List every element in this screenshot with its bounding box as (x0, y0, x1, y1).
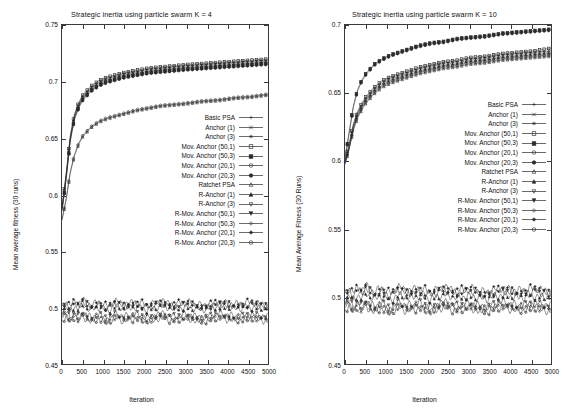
y-tick-mark (547, 298, 551, 299)
legend-item[interactable]: Mov. Anchor (50,3) (379, 138, 547, 148)
legend-key-plus-icon (521, 100, 547, 109)
y-tick-label: 0.5 (332, 293, 341, 300)
y-tick-mark (62, 139, 66, 140)
x-tick-mark (532, 25, 533, 29)
y-tick-mark (345, 161, 349, 162)
legend-item-label: R-Anchor (3) (198, 199, 238, 209)
x-tick-label: 1500 (399, 368, 413, 375)
x-tick-mark (345, 25, 346, 29)
legend-key-open-square-icon (238, 142, 264, 151)
x-tick-mark (62, 25, 63, 29)
x-tick-mark (124, 25, 125, 29)
legend-key-filled-diamond-icon (238, 228, 264, 237)
legend-item[interactable]: Mov. Anchor (20,3) (379, 158, 547, 168)
x-tick-mark (62, 360, 63, 364)
x-axis-ticks-left: 0500100015002000250030003500400045005000 (0, 368, 283, 382)
legend-key-cross-icon (521, 110, 547, 119)
legend-key-filled-triangle-icon (521, 177, 547, 186)
legend-item[interactable]: R-Anchor (3) (96, 199, 264, 209)
x-tick-label: 4000 (220, 368, 234, 375)
y-axis-ticks-right: 0.450.50.550.60.650.7 (297, 0, 341, 419)
chart-panel-right: Strategic inertia using particle swarm K… (283, 0, 566, 419)
legend-item[interactable]: R-Mov. Anchor (50,1) (379, 196, 547, 206)
legend-key-filled-down-triangle-icon (521, 196, 547, 205)
legend-key-open-square-icon (521, 129, 547, 138)
legend-item-label: R-Anchor (1) (481, 177, 521, 187)
legend-item[interactable]: Mov. Anchor (50,3) (96, 151, 264, 161)
legend-key-open-circle-icon (238, 161, 264, 170)
legend-item[interactable]: R-Anchor (1) (96, 190, 264, 200)
x-tick-mark (83, 25, 84, 29)
y-tick-mark (264, 252, 268, 253)
x-tick-mark (145, 25, 146, 29)
legend-item[interactable]: Anchor (1) (96, 123, 264, 133)
legend-item[interactable]: R-Mov. Anchor (50,1) (96, 209, 264, 219)
y-tick-mark (547, 25, 551, 26)
x-tick-mark (407, 360, 408, 364)
legend-key-filled-triangle-icon (238, 190, 264, 199)
legend-item[interactable]: Anchor (3) (379, 119, 547, 129)
y-tick-label: 0.5 (49, 305, 58, 312)
x-tick-label: 4500 (524, 368, 538, 375)
chart-panel-left: Strategic inertia using particle swarm K… (0, 0, 283, 419)
legend-item[interactable]: Basic PSA (96, 113, 264, 123)
legend-key-filled-diamond-icon (521, 215, 547, 224)
y-tick-mark (547, 230, 551, 231)
legend-item[interactable]: Ratchet PSA (379, 167, 547, 177)
legend-item[interactable]: Ratchet PSA (96, 180, 264, 190)
x-tick-label: 500 (359, 368, 370, 375)
legend-key-open-circle-icon (521, 225, 547, 234)
x-tick-label: 3000 (179, 368, 193, 375)
legend-key-open-diamond-icon (521, 206, 547, 215)
legend-item[interactable]: Mov. Anchor (20,1) (96, 161, 264, 171)
legend-key-filled-square-icon (238, 152, 264, 161)
x-axis-ticks-right: 0500100015002000250030003500400045005000 (283, 368, 566, 382)
legend-item[interactable]: Mov. Anchor (20,1) (379, 148, 547, 158)
y-tick-label: 0.6 (49, 191, 58, 198)
x-tick-mark (228, 25, 229, 29)
legend-item-label: R-Mov. Anchor (20,1) (175, 228, 238, 238)
x-tick-label: 1500 (116, 368, 130, 375)
legend-key-filled-circle-icon (238, 171, 264, 180)
y-axis-ticks-left: 0.450.50.550.60.650.70.75 (14, 0, 58, 419)
legend-item[interactable]: R-Mov. Anchor (20,1) (379, 215, 547, 225)
x-tick-mark (345, 360, 346, 364)
legend-item-label: R-Mov. Anchor (50,1) (458, 196, 521, 206)
legend-item[interactable]: Anchor (3) (96, 132, 264, 142)
legend-item[interactable]: Mov. Anchor (20,3) (96, 171, 264, 181)
x-tick-label: 4000 (503, 368, 517, 375)
legend-key-star-icon (238, 132, 264, 141)
x-tick-mark (249, 360, 250, 364)
legend-item[interactable]: Mov. Anchor (50,1) (379, 129, 547, 139)
legend-item[interactable]: R-Mov. Anchor (50,3) (96, 219, 264, 229)
x-tick-mark (491, 360, 492, 364)
legend-item-label: Mov. Anchor (20,1) (464, 148, 521, 158)
x-tick-mark (208, 360, 209, 364)
x-tick-label: 2000 (420, 368, 434, 375)
x-tick-label: 500 (76, 368, 87, 375)
x-tick-label: 3500 (482, 368, 496, 375)
legend-item[interactable]: R-Mov. Anchor (20,3) (379, 225, 547, 235)
x-tick-label: 5000 (262, 368, 276, 375)
legend-item[interactable]: R-Anchor (1) (379, 177, 547, 187)
legend-item-label: Anchor (1) (205, 123, 238, 133)
legend-item-label: R-Mov. Anchor (50,1) (175, 209, 238, 219)
legend-item[interactable]: R-Mov. Anchor (20,3) (96, 238, 264, 248)
x-tick-mark (124, 360, 125, 364)
legend-item[interactable]: R-Mov. Anchor (50,3) (379, 206, 547, 216)
legend-item-label: Mov. Anchor (50,3) (464, 138, 521, 148)
x-axis-label-left: Iteration (0, 396, 283, 403)
legend-item[interactable]: Anchor (1) (379, 110, 547, 120)
legend-item[interactable]: Basic PSA (379, 100, 547, 110)
y-tick-mark (62, 196, 66, 197)
legend-item-label: Mov. Anchor (20,1) (181, 161, 238, 171)
legend-item[interactable]: R-Anchor (3) (379, 186, 547, 196)
legend-item[interactable]: Mov. Anchor (50,1) (96, 142, 264, 152)
x-tick-mark (166, 360, 167, 364)
legend-item-label: Basic PSA (488, 100, 521, 110)
y-tick-mark (264, 196, 268, 197)
y-tick-mark (264, 25, 268, 26)
y-tick-mark (547, 161, 551, 162)
legend-item[interactable]: R-Mov. Anchor (20,1) (96, 228, 264, 238)
legend-item-label: R-Mov. Anchor (20,3) (458, 225, 521, 235)
